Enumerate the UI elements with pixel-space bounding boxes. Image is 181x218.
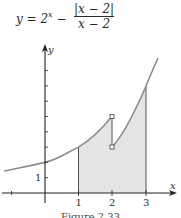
- y-axis-label: y: [47, 44, 54, 55]
- x-tick-label-1: 1: [76, 197, 82, 208]
- x-axis-label: x: [170, 180, 176, 191]
- open-point-upper: [110, 115, 114, 119]
- graph: 1 2 3 1 x y: [0, 0, 181, 218]
- figure-caption: Figure 2.33: [0, 211, 181, 218]
- x-tick-label-2: 2: [109, 197, 115, 208]
- x-tick-label-3: 3: [143, 197, 149, 208]
- y-tick-label-1: 1: [35, 172, 41, 183]
- open-point-lower: [110, 145, 114, 149]
